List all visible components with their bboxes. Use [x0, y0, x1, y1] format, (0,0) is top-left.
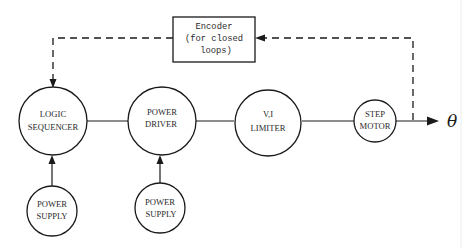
power-supply-1-label-line2: SUPPLY: [36, 211, 67, 221]
node-power-supply-2: POWER SUPPLY: [135, 183, 185, 233]
power-supply-2-label-line2: SUPPLY: [145, 209, 176, 219]
power-driver-label-line1: POWER: [147, 107, 177, 117]
encoder-label-line3: loops): [200, 46, 232, 56]
power-supply-1-label-line1: POWER: [37, 199, 67, 209]
logic-sequencer-circle: [19, 87, 87, 155]
node-logic-sequencer: LOGIC SEQUENCER: [19, 87, 87, 155]
logic-sequencer-label-line2: SEQUENCER: [28, 122, 79, 132]
node-step-motor: STEP MOTOR: [354, 100, 396, 142]
node-vi-limiter: V,I LIMITER: [235, 90, 301, 156]
power-supply-2-label-line1: POWER: [145, 197, 175, 207]
encoder-block: Encoder (for closed loops): [173, 17, 255, 62]
step-motor-label-line1: STEP: [365, 109, 385, 119]
vi-limiter-label-line1: V,I: [263, 109, 273, 119]
feedback-path-to-sequencer: [50, 38, 174, 88]
arrow-supply2-icon: [157, 155, 164, 164]
encoder-label-line2: (for closed: [185, 34, 243, 44]
arrow-supply1-icon: [49, 155, 56, 164]
step-motor-block-diagram: Encoder (for closed loops) θ LOGIC SEQUE…: [0, 0, 474, 248]
encoder-label-line1: Encoder: [196, 22, 233, 32]
node-power-driver: POWER DRIVER: [128, 87, 196, 155]
power-supply-2-circle: [135, 183, 185, 233]
logic-sequencer-label-line1: LOGIC: [40, 109, 67, 119]
node-power-supply-1: POWER SUPPLY: [27, 186, 77, 236]
vi-limiter-label-line2: LIMITER: [251, 123, 286, 133]
output-arrow-icon: [427, 117, 439, 126]
power-driver-label-line2: DRIVER: [145, 119, 177, 129]
arrow-into-encoder-icon: [255, 35, 265, 42]
feedback-dashed-line-left: [53, 38, 173, 81]
output-angle-theta: θ: [447, 111, 457, 131]
step-motor-label-line2: MOTOR: [360, 121, 391, 131]
